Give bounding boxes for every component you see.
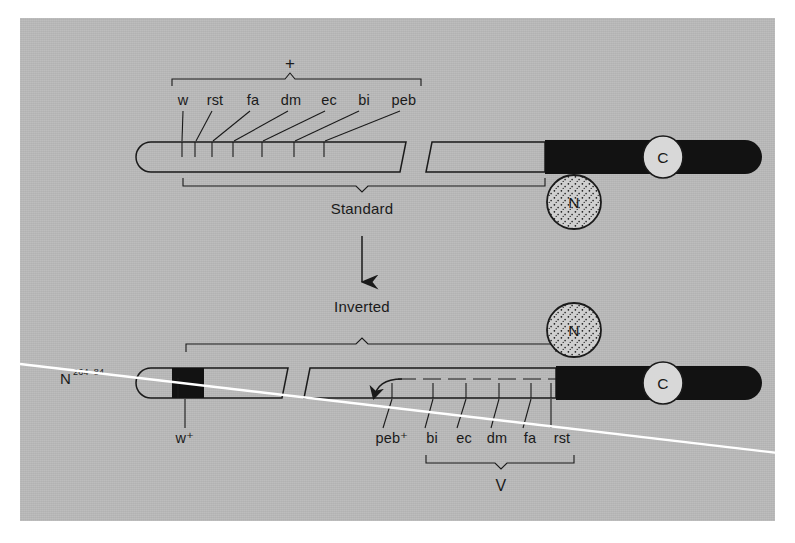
inverted-label: Inverted <box>334 298 390 315</box>
bottom-marker-label-peb-plus: peb⁺ <box>376 430 409 446</box>
bottom-chromosome-mid-segment <box>304 368 556 398</box>
bottom-marker-leaders <box>185 399 551 428</box>
bottom-marker-label-bi: bi <box>426 430 438 446</box>
top-marker-label-bi: bi <box>358 92 370 108</box>
top-marker-leaders <box>182 111 400 141</box>
nucleolus-label-top: N <box>568 194 579 211</box>
figure-canvas: w rst fa dm ec bi peb + Standard C <box>0 0 795 543</box>
top-marker-labels: w rst fa dm ec bi peb <box>177 92 417 108</box>
bottom-marker-label-rst: rst <box>554 430 571 446</box>
top-chromosome-left-arm <box>136 142 406 172</box>
top-marker-label-rst: rst <box>207 92 224 108</box>
top-chromosome-mid-segment <box>426 142 545 172</box>
diagram-svg: w rst fa dm ec bi peb + Standard C <box>0 0 795 543</box>
v-label: V <box>496 477 507 494</box>
inversion-breakpoint-curved-arrow <box>374 379 402 397</box>
bottom-marker-label-fa: fa <box>524 430 537 446</box>
top-plus-bracket <box>172 73 421 86</box>
top-marker-ticks <box>182 142 324 157</box>
top-marker-label-dm: dm <box>281 92 302 108</box>
centromere-label-bottom: C <box>657 375 668 392</box>
bottom-chromosome-group: Inverted w⁺ <box>136 298 762 494</box>
top-chromosome-group: w rst fa dm ec bi peb + Standard C <box>136 54 762 229</box>
v-bracket <box>426 455 574 469</box>
nucleolus-label-bottom: N <box>568 322 579 339</box>
bottom-marker-label-dm: dm <box>487 430 508 446</box>
centromere-label-top: C <box>657 149 668 166</box>
inverted-bracket <box>186 338 556 352</box>
top-marker-label-ec: ec <box>321 92 337 108</box>
top-marker-label-w: w <box>177 92 189 108</box>
plus-symbol: + <box>285 54 295 73</box>
bottom-marker-label-ec: ec <box>456 430 472 446</box>
bottom-marker-labels: peb⁺ bi ec dm fa rst <box>376 430 571 446</box>
bottom-marker-label-w-plus: w⁺ <box>175 430 195 446</box>
top-marker-label-fa: fa <box>247 92 260 108</box>
standard-label: Standard <box>331 200 393 217</box>
top-marker-label-peb: peb <box>392 92 417 108</box>
standard-bracket <box>183 178 545 192</box>
bottom-marker-ticks <box>392 383 551 398</box>
strain-label-base: N <box>60 370 71 387</box>
